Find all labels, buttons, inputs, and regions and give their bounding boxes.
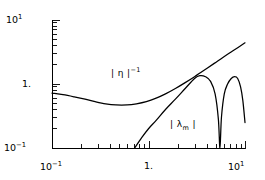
curve-lambda-m	[135, 76, 245, 148]
figure-container: 101 1. 10−1 10−1 1. 101 | η |−1 | λm |	[0, 0, 265, 180]
data-curves	[52, 43, 245, 148]
lambda-m-label-base-open: | λ	[170, 119, 182, 129]
y-axis-ticks	[53, 20, 61, 148]
x-tick-label-right: 101	[228, 160, 244, 172]
y-tick-label-top: 101	[6, 13, 22, 25]
y-tick-label-bottom: 10−1	[4, 141, 26, 153]
eta-inverse-label-base: | η |	[111, 68, 131, 78]
eta-inverse-label-superscript: −1	[131, 66, 141, 74]
lambda-m-label: | λm |	[170, 119, 196, 132]
lambda-m-label-base-close: |	[189, 119, 196, 129]
x-tick-label-left: 10−1	[40, 160, 62, 172]
x-tick-label-mid: 1.	[144, 160, 153, 171]
y-tick-label-mid: 1.	[22, 78, 31, 89]
x-axis-ticks	[53, 141, 246, 149]
eta-inverse-label: | η |−1	[111, 66, 141, 78]
log-log-plot	[0, 0, 265, 180]
